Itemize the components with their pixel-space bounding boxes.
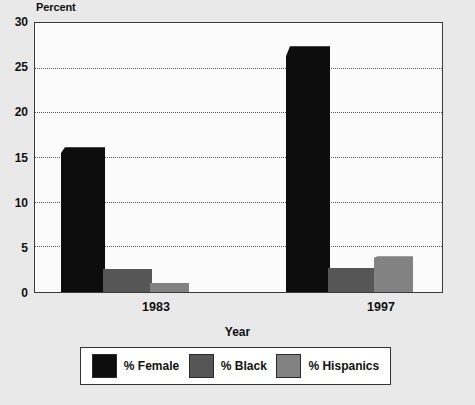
y-tick-label: 20 [2, 106, 28, 118]
legend-swatch-black [189, 354, 214, 378]
bar-1997-hispanics [374, 256, 413, 292]
plot-inner [35, 23, 442, 292]
legend-swatch-hispanics [276, 354, 301, 378]
gridline-25 [35, 68, 442, 69]
bar-face [103, 269, 152, 292]
bar-1997-female [286, 46, 330, 292]
plot-area [34, 22, 443, 293]
bar-1983-hispanics [150, 283, 189, 292]
bar-face [374, 256, 413, 292]
bar-face [286, 46, 330, 292]
chart-legend: % Female % Black % Hispanics [80, 347, 391, 385]
y-tick-label: 25 [2, 61, 28, 73]
bar-face [328, 268, 376, 292]
gridline-20 [35, 112, 442, 113]
legend-swatch-female [92, 354, 117, 378]
bar-face [61, 147, 105, 292]
bar-1983-black [103, 269, 152, 292]
bar-1983-female [61, 147, 105, 292]
x-tick-1997: 1997 [341, 300, 421, 314]
legend-item-female: % Female [92, 354, 179, 378]
y-tick-label: 10 [2, 197, 28, 209]
legend-label-female: % Female [124, 359, 179, 373]
x-axis-title: Year [0, 325, 475, 339]
y-tick-label: 0 [2, 287, 28, 299]
y-tick-label: 15 [2, 152, 28, 164]
y-tick-label: 5 [2, 242, 28, 254]
bar-face [150, 283, 189, 292]
legend-label-black: % Black [221, 359, 267, 373]
legend-item-black: % Black [189, 354, 267, 378]
bar-chart: Percent 30 25 20 15 10 5 0 [0, 0, 475, 405]
y-tick-label: 30 [2, 16, 28, 28]
legend-item-hispanics: % Hispanics [276, 354, 379, 378]
x-tick-1983: 1983 [116, 300, 196, 314]
legend-label-hispanics: % Hispanics [308, 359, 379, 373]
bar-1997-black [328, 268, 376, 292]
